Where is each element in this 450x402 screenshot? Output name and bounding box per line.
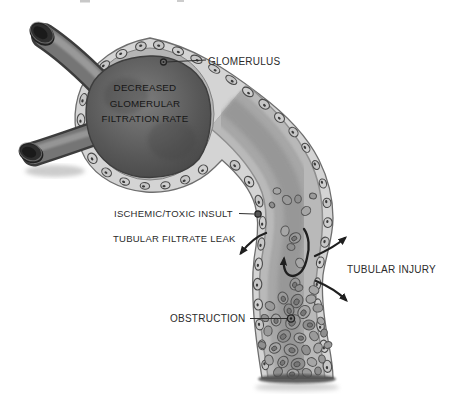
gfr-line-2: GLOMERULAR (97, 96, 193, 112)
cropped-text-artifact (177, 0, 184, 2)
epithelial-cell (323, 218, 332, 228)
gfr-line-1: DECREASED (97, 80, 193, 96)
debris-blob (271, 314, 281, 326)
debris-blob (273, 188, 281, 195)
epithelial-cell (322, 198, 331, 208)
ischemic-insult-label: ISCHEMIC/TOXIC INSULT (114, 208, 233, 220)
tubular-injury-label: TUBULAR INJURY (347, 264, 436, 276)
glomerulus-label: GLOMERULUS (208, 56, 281, 68)
debris-blob (294, 195, 301, 203)
debris-blob (303, 320, 315, 330)
tubular-filtrate-leak-label: TUBULAR FILTRATE LEAK (113, 233, 236, 245)
epithelial-cell (259, 216, 266, 228)
gfr-label: DECREASED GLOMERULAR FILTRATION RATE (97, 80, 193, 127)
tubule-cut-end (240, 374, 360, 402)
obstruction-dot-center (290, 317, 292, 319)
epithelial-cell (140, 182, 150, 189)
arteriole-shadow (25, 165, 85, 177)
cropped-text-artifact (80, 0, 90, 3)
ischemic-leader (239, 214, 254, 215)
ischemic-dot (255, 211, 261, 217)
debris-blob (315, 367, 322, 375)
gfr-line-3: FILTRATION RATE (97, 111, 193, 127)
debris-blob (309, 193, 317, 200)
nephron-diagram: GLOMERULUS DECREASED GLOMERULAR FILTRATI… (0, 0, 450, 402)
debris-blob (263, 326, 272, 337)
epithelial-cell (253, 278, 262, 290)
epithelial-cell (254, 299, 263, 310)
obstruction-label: OBSTRUCTION (170, 313, 246, 325)
glomerulus-dot-center (163, 61, 165, 63)
